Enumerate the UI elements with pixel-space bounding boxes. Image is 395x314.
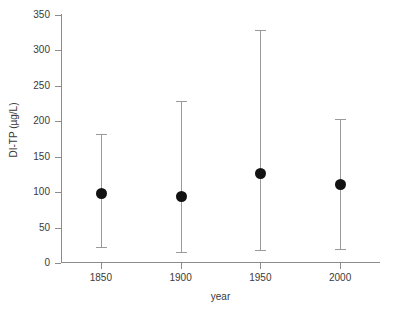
y-tick-label-wrap: 0	[0, 258, 50, 268]
x-tick-mark	[181, 263, 182, 269]
errorbar-cap-lower	[335, 249, 346, 250]
y-tick-label-wrap: 50	[0, 223, 50, 233]
x-tick-label: 1900	[151, 272, 211, 284]
y-tick-mark	[55, 263, 61, 264]
errorbar-cap-upper	[255, 30, 266, 31]
x-tick-mark	[260, 263, 261, 269]
y-axis-title: DI-TP (µg/L)	[8, 70, 20, 190]
errorbar-line	[260, 30, 261, 250]
x-tick-mark	[101, 263, 102, 269]
errorbar-cap-upper	[176, 101, 187, 102]
y-tick-label-wrap: 300	[0, 45, 50, 55]
errorbar-cap-upper	[335, 119, 346, 120]
errorbar-cap-lower	[255, 250, 266, 251]
y-tick-mark	[55, 50, 61, 51]
errorbar-cap-lower	[96, 247, 107, 248]
errorbar-cap-lower	[176, 252, 187, 253]
y-tick-mark	[55, 15, 61, 16]
errorbar-line	[181, 101, 182, 253]
y-tick-label: 200	[33, 116, 50, 126]
data-point-marker	[335, 179, 346, 190]
x-tick-label-wrap: 1900	[151, 272, 211, 284]
y-tick-label: 100	[33, 187, 50, 197]
y-tick-label: 300	[33, 45, 50, 55]
y-tick-label: 50	[39, 223, 50, 233]
x-tick-label-wrap: 1850	[71, 272, 131, 284]
y-tick-label-wrap: 350	[0, 10, 50, 20]
x-tick-label: 2000	[310, 272, 370, 284]
data-point-marker	[96, 188, 107, 199]
errorbar-cap-upper	[96, 134, 107, 135]
x-tick-label-wrap: 2000	[310, 272, 370, 284]
x-axis-line	[61, 262, 380, 263]
y-tick-label: 250	[33, 81, 50, 91]
y-tick-label: 150	[33, 152, 50, 162]
chart-figure: 050100150200250300350 1850190019502000 D…	[0, 0, 395, 314]
data-point-marker	[176, 191, 187, 202]
x-axis-title: year	[61, 291, 380, 303]
y-tick-mark	[55, 121, 61, 122]
x-tick-mark	[340, 263, 341, 269]
y-tick-mark	[55, 228, 61, 229]
y-axis-line	[61, 14, 62, 263]
y-tick-mark	[55, 192, 61, 193]
x-tick-label: 1950	[230, 272, 290, 284]
x-tick-label-wrap: 1950	[230, 272, 290, 284]
y-tick-label: 350	[33, 10, 50, 20]
y-tick-mark	[55, 86, 61, 87]
data-point-marker	[255, 168, 266, 179]
y-tick-label: 0	[44, 258, 50, 268]
y-tick-mark	[55, 157, 61, 158]
x-tick-label: 1850	[71, 272, 131, 284]
